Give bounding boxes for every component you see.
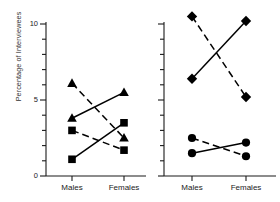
circle-marker	[242, 138, 250, 146]
diamond-marker	[241, 92, 251, 102]
triangle-descending-line	[72, 83, 124, 138]
y-tick-label-0: 0	[12, 171, 38, 180]
diamond-descending-line	[192, 16, 246, 97]
diamond-marker	[187, 11, 197, 21]
x-tick-label-males: Males	[42, 183, 102, 192]
x-tick-label-females: Females	[94, 183, 154, 192]
triangle-marker	[119, 87, 129, 96]
square-marker	[120, 119, 128, 127]
square-ascending-line	[72, 123, 124, 159]
x-tick-label-males: Males	[162, 183, 222, 192]
triangle-marker	[67, 113, 77, 122]
square-marker	[68, 155, 76, 163]
y-tick-label-5: 5	[12, 95, 38, 104]
triangle-marker	[67, 78, 77, 87]
triangle-ascending-line	[72, 92, 124, 118]
right-panel-plot	[150, 0, 280, 202]
circle-marker	[188, 149, 196, 157]
square-marker	[120, 146, 128, 154]
circle-ascending-line	[192, 143, 246, 154]
chart-figure: Percentage of Interviewees 0510MalesFema…	[0, 0, 280, 202]
square-marker	[68, 127, 76, 135]
circle-marker	[242, 152, 250, 160]
left-panel: 0510MalesFemales	[0, 0, 150, 202]
right-panel: MalesFemales	[150, 0, 280, 202]
circle-marker	[188, 134, 196, 142]
y-tick-label-10: 10	[12, 19, 38, 28]
x-tick-label-females: Females	[216, 183, 276, 192]
